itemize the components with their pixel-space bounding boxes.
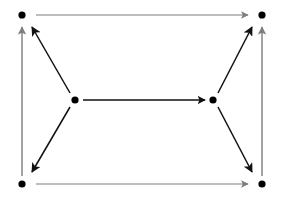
node-top-right[interactable] — [258, 11, 265, 18]
node-bottom-right[interactable] — [258, 180, 265, 187]
node-middle-left[interactable] — [71, 96, 78, 103]
node-middle-right[interactable] — [209, 96, 216, 103]
directed-graph-canvas — [0, 0, 282, 199]
edge-group — [22, 15, 262, 184]
edge-middle-right-to-bottom-right[interactable] — [218, 107, 252, 172]
edge-middle-left-to-bottom-left[interactable] — [32, 107, 70, 172]
edge-middle-left-to-top-left[interactable] — [32, 27, 70, 93]
edge-middle-right-to-top-right[interactable] — [218, 27, 252, 93]
node-top-left[interactable] — [18, 11, 25, 18]
node-bottom-left[interactable] — [18, 180, 25, 187]
